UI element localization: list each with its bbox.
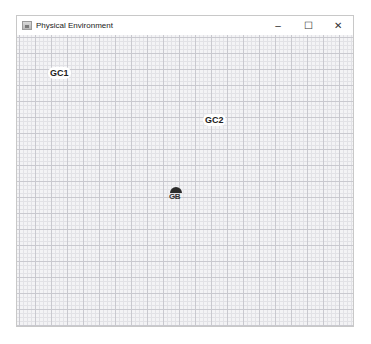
java-app-icon <box>22 21 32 30</box>
physical-environment-window: Physical Environment – ☐ ✕ GC1 GC2 GB <box>16 15 354 327</box>
window-controls: – ☐ ✕ <box>263 16 353 35</box>
node-gc1[interactable]: GC1 <box>48 68 71 78</box>
environment-canvas[interactable]: GC1 GC2 GB <box>17 35 353 326</box>
node-gc2[interactable]: GC2 <box>203 115 226 125</box>
window-title: Physical Environment <box>36 21 113 30</box>
title-bar[interactable]: Physical Environment – ☐ ✕ <box>17 16 353 35</box>
maximize-button[interactable]: ☐ <box>293 16 323 35</box>
minimize-button[interactable]: – <box>263 16 293 35</box>
node-gb-label: GB <box>169 192 180 201</box>
close-button[interactable]: ✕ <box>323 16 353 35</box>
node-gc1-label: GC1 <box>48 67 71 79</box>
node-gc2-label: GC2 <box>203 114 226 126</box>
node-gb[interactable]: GB <box>168 187 184 203</box>
